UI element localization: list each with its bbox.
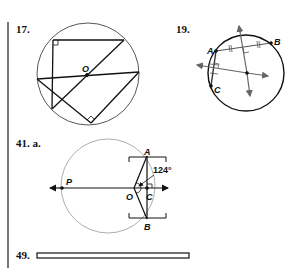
fig19-label-b: B (274, 37, 281, 47)
fig41-angle-label: 124° (153, 165, 172, 175)
fig41-label-b: B (144, 222, 151, 232)
fig41-label-a: A (143, 147, 151, 157)
fig19-label-a: A (206, 46, 214, 56)
problem-49-bar (37, 253, 189, 258)
figure-17 (37, 23, 139, 125)
figure-19 (197, 26, 284, 111)
fig41-label-o: O (126, 192, 133, 202)
fig41-label-p: P (66, 177, 73, 187)
fig17-label-o: O (82, 64, 89, 74)
fig41-label-c: C (146, 192, 153, 202)
figures: O A B C (0, 0, 294, 268)
fig19-label-c: C (214, 85, 221, 95)
